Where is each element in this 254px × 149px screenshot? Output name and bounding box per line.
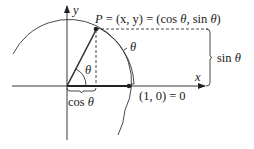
point-p-label: P = (x, y) = (cos θ, sin θ) xyxy=(94,12,221,26)
arc-theta-label: θ xyxy=(130,40,136,54)
sin-bracket xyxy=(206,29,212,86)
cos-theta-label: cos θ xyxy=(68,95,94,109)
radius-to-p xyxy=(67,30,96,86)
point-one-zero-label: (1, 0) = 0 xyxy=(139,89,186,103)
x-axis-label: x xyxy=(194,70,201,84)
angle-theta-label: θ xyxy=(85,63,91,77)
cos-bracket xyxy=(67,88,96,93)
arc-length-bracket xyxy=(99,28,134,84)
point-p xyxy=(94,27,99,32)
arc-bracket-tick xyxy=(124,48,127,50)
y-axis-label: y xyxy=(71,3,79,17)
sin-theta-label: sin θ xyxy=(217,51,241,65)
point-one-zero xyxy=(127,84,132,89)
unit-circle-diagram: y x P = (x, y) = (cos θ, sin θ) θ θ sin … xyxy=(0,0,254,149)
